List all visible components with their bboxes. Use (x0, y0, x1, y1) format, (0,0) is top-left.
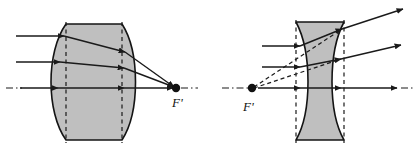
converging-lens-panel: F' (6, 22, 198, 143)
diverging-lens-panel: F' (222, 9, 413, 143)
outgoing-ray-top (342, 9, 403, 29)
focal-point-label: F' (242, 99, 254, 114)
optics-diagram-svg: F' (0, 0, 414, 150)
outgoing-ray-middle (341, 45, 401, 59)
biconcave-lens-glass (296, 22, 344, 140)
optics-figure: F' (0, 0, 414, 150)
focal-point-marker (172, 84, 180, 92)
focal-point-marker (248, 84, 256, 92)
biconvex-lens-glass (51, 24, 136, 140)
focal-point-label: F' (171, 95, 183, 110)
